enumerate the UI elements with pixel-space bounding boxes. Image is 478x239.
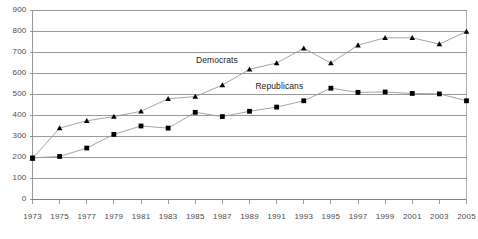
- data-point-marker: [57, 154, 62, 159]
- gridline-group: [33, 11, 467, 200]
- y-axis-tick-label: 400: [0, 110, 27, 119]
- y-axis-tick-label: 500: [0, 89, 27, 98]
- data-point-marker: [356, 90, 361, 95]
- series-label-republicans: Republicans: [255, 81, 303, 91]
- data-point-marker: [301, 46, 307, 51]
- y-axis-tick-label: 0: [0, 194, 27, 203]
- data-point-marker: [247, 109, 252, 114]
- y-axis-tick-label: 300: [0, 131, 27, 140]
- y-axis-tick-label: 700: [0, 47, 27, 56]
- data-point-marker: [220, 82, 226, 87]
- series-line-group: [33, 32, 467, 159]
- data-point-marker: [166, 126, 171, 131]
- data-point-marker: [274, 105, 279, 110]
- y-axis-tick-label: 900: [0, 5, 27, 14]
- data-point-marker: [464, 98, 469, 103]
- data-point-marker: [138, 109, 144, 114]
- data-point-marker: [383, 90, 388, 95]
- x-axis-tick-group: [33, 200, 467, 204]
- line-chart-plot: [0, 0, 478, 239]
- data-point-marker: [328, 60, 334, 65]
- y-axis-tick-label: 200: [0, 152, 27, 161]
- x-axis-tick-label: 2005: [450, 212, 478, 221]
- data-point-marker: [410, 91, 415, 96]
- data-point-marker: [220, 114, 225, 119]
- data-point-marker: [274, 60, 280, 65]
- data-point-marker: [111, 132, 116, 137]
- y-axis-tick-label: 600: [0, 68, 27, 77]
- y-axis-tick-label: 800: [0, 26, 27, 35]
- series-line-republicans: [33, 88, 467, 158]
- series-line-democrats: [33, 32, 467, 159]
- y-axis-tick-label: 100: [0, 173, 27, 182]
- plot-area-frame: [33, 11, 467, 200]
- data-point-marker: [84, 146, 89, 151]
- chart-container: 0100200300400500600700800900 19731975197…: [0, 0, 478, 239]
- data-point-marker: [437, 91, 442, 96]
- data-point-marker: [30, 156, 35, 161]
- data-point-marker: [301, 98, 306, 103]
- data-point-marker: [139, 124, 144, 129]
- series-label-democrats: Democrats: [196, 55, 238, 65]
- data-point-marker: [328, 86, 333, 91]
- data-point-marker: [193, 110, 198, 115]
